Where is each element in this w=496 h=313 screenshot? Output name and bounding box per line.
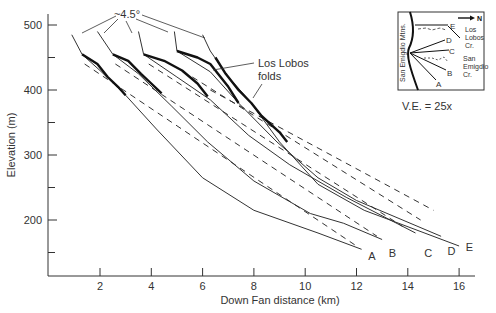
x-tick-label: 12 xyxy=(350,280,362,292)
inset-letter-B: B xyxy=(447,69,452,78)
y-tick-label: 400 xyxy=(24,84,42,96)
upper-segments xyxy=(72,32,211,55)
inset-letter-C: C xyxy=(449,47,455,56)
y-tick-label: 200 xyxy=(24,214,42,226)
y-axis-ticks xyxy=(48,25,57,253)
x-tick-label: 16 xyxy=(453,280,465,292)
x-tick-label: 6 xyxy=(200,280,206,292)
upper-segment-A xyxy=(72,35,82,55)
y-tick-label: 300 xyxy=(24,149,42,161)
upper-segment-C xyxy=(138,32,143,55)
upper-segment-B xyxy=(97,32,112,55)
upper-segment-D xyxy=(174,32,177,52)
creek-label-los: Los xyxy=(465,26,477,33)
profile-label-A: A xyxy=(368,250,376,262)
dashed-trend-lines xyxy=(85,64,434,246)
profile-line-A xyxy=(82,54,362,249)
north-label: N xyxy=(477,15,482,22)
mountain-label: San Emigdio Mtns. xyxy=(399,23,407,82)
y-axis-tick-labels: 200300400500 xyxy=(24,19,42,226)
creek-label-lobos: Lobos xyxy=(465,34,485,41)
x-axis-label: Down Fan distance (km) xyxy=(220,294,339,306)
x-tick-label: 14 xyxy=(402,280,414,292)
y-tick-label: 500 xyxy=(24,19,42,31)
profile-label-C: C xyxy=(424,247,432,259)
y-axis-label: Elevation (m) xyxy=(5,113,17,178)
profile-label-D: D xyxy=(447,245,455,257)
inset-letter-A: A xyxy=(436,80,442,89)
inset-letter-D: D xyxy=(446,36,452,45)
folds-label-line1: Los Lobos xyxy=(258,57,309,69)
creek-label-cr2: Cr. xyxy=(463,71,472,78)
x-tick-label: 2 xyxy=(97,280,103,292)
profile-label-B: B xyxy=(389,247,396,259)
profile-label-E: E xyxy=(466,241,473,253)
vertical-exaggeration-label: V.E. = 25x xyxy=(402,100,453,112)
x-axis-ticks xyxy=(100,268,459,276)
creek-label-emigdio: Emigdio xyxy=(463,63,488,71)
x-tick-label: 8 xyxy=(251,280,257,292)
angle-annotation: ~4.5° xyxy=(82,8,205,38)
folds-label-line2: folds xyxy=(258,70,282,82)
profile-line-B xyxy=(113,54,382,239)
dashed-trend-C xyxy=(149,64,403,227)
dashed-trend-A xyxy=(85,64,357,246)
inset-map: San Emigdio Mtns. N A B C D E Los Lobos … xyxy=(398,12,488,112)
x-tick-label: 4 xyxy=(148,280,154,292)
angle-label: ~4.5° xyxy=(114,8,140,20)
dashed-trend-D xyxy=(192,77,420,220)
elevation-profile-chart: 200300400500 246810121416 Down Fan dista… xyxy=(0,0,496,313)
creek-label-cr1: Cr. xyxy=(465,42,474,49)
fold-segments xyxy=(82,51,287,142)
x-tick-label: 10 xyxy=(299,280,311,292)
inset-letter-E: E xyxy=(450,22,455,31)
x-axis-tick-labels: 246810121416 xyxy=(97,280,465,292)
profile-labels: ABCDE xyxy=(368,241,473,261)
creek-label-san: San xyxy=(463,55,476,62)
